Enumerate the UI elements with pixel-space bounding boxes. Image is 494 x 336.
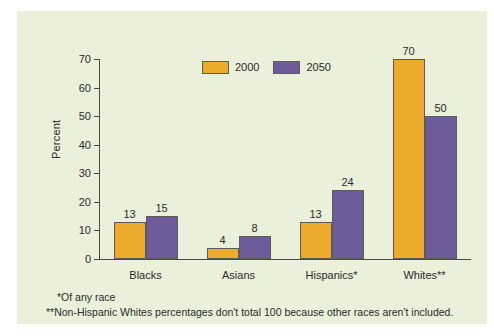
x-axis-category-label: Blacks — [129, 269, 161, 281]
bar-group-blacks: 1315Blacks — [114, 59, 178, 259]
bar-2050-whites[interactable]: 50 — [425, 116, 457, 259]
bar-2050-hispanics[interactable]: 24 — [332, 190, 364, 259]
x-axis-category-label: Whites** — [403, 269, 445, 281]
bar-group-whites: 7050Whites** — [393, 59, 457, 259]
bar-value-label: 8 — [251, 223, 257, 234]
bar-chart-figure: Percent 20002050 010203040506070 1315Bla… — [0, 0, 494, 336]
bar-value-label: 70 — [402, 46, 414, 57]
y-tick-mark — [94, 59, 99, 60]
bar-2000-blacks[interactable]: 13 — [114, 222, 146, 259]
y-tick-label: 70 — [79, 54, 91, 65]
y-tick-label: 20 — [79, 196, 91, 207]
bar-group-hispanics: 1324Hispanics* — [300, 59, 364, 259]
y-tick-label: 10 — [79, 225, 91, 236]
bar-value-label: 15 — [155, 203, 167, 214]
y-tick-label: 0 — [85, 254, 91, 265]
y-tick-label: 60 — [79, 82, 91, 93]
y-tick-mark — [94, 230, 99, 231]
chart-footnotes: *Of any race **Non-Hispanic Whites perce… — [57, 290, 453, 320]
y-tick-mark — [94, 173, 99, 174]
y-tick-label: 40 — [79, 139, 91, 150]
footnote-two: **Non-Hispanic Whites percentages don't … — [46, 305, 453, 320]
y-tick-mark — [94, 116, 99, 117]
bar-group-asians: 48Asians — [207, 59, 271, 259]
bar-2000-whites[interactable]: 70 — [393, 59, 425, 259]
bar-value-label: 24 — [341, 177, 353, 188]
y-axis-line — [99, 59, 100, 260]
y-tick-mark — [94, 259, 99, 260]
y-tick-mark — [94, 202, 99, 203]
footnote-one: *Of any race — [57, 290, 453, 305]
bar-value-label: 13 — [123, 209, 135, 220]
y-axis-title: Percent — [50, 120, 62, 159]
y-tick-mark — [94, 145, 99, 146]
plot-area: 010203040506070 1315Blacks48Asians1324Hi… — [99, 59, 471, 259]
x-axis-category-label: Hispanics* — [306, 269, 358, 281]
chart-panel: Percent 20002050 010203040506070 1315Bla… — [17, 11, 487, 324]
bar-2050-blacks[interactable]: 15 — [146, 216, 178, 259]
y-tick-label: 50 — [79, 111, 91, 122]
y-tick-label: 30 — [79, 168, 91, 179]
bar-2050-asians[interactable]: 8 — [239, 236, 271, 259]
bar-value-label: 13 — [309, 209, 321, 220]
bar-value-label: 50 — [434, 103, 446, 114]
x-axis-category-label: Asians — [222, 269, 255, 281]
y-tick-mark — [94, 88, 99, 89]
x-axis-line — [99, 259, 471, 260]
bar-value-label: 4 — [219, 235, 225, 246]
bar-2000-hispanics[interactable]: 13 — [300, 222, 332, 259]
bar-2000-asians[interactable]: 4 — [207, 248, 239, 259]
